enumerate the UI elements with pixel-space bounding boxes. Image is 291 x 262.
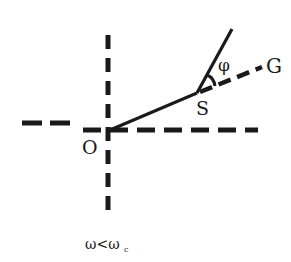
condition-main: ω<ω [85, 236, 120, 252]
label-g: G [266, 54, 282, 78]
condition-label: ω<ω c [85, 236, 129, 254]
angle-phi-arc [207, 75, 215, 86]
label-phi: φ [218, 55, 230, 75]
condition-subscript: c [124, 245, 129, 254]
label-s: S [196, 97, 209, 119]
segment-OS [110, 93, 197, 130]
diagram-canvas: φ G S O ω<ω c [0, 0, 291, 262]
label-origin: O [82, 136, 98, 158]
